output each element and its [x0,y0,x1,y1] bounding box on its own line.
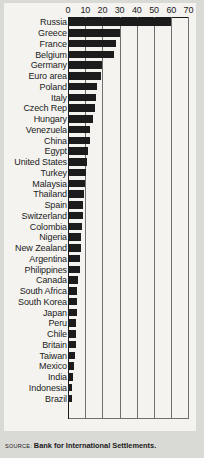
bar-row: Greece [4,28,196,39]
bar-germany [68,61,102,69]
bar-new-zealand [68,244,81,252]
bar-row: Mexico [4,361,196,372]
x-axis-tick-labels: 010203040506070 [4,5,196,17]
bar-row: Colombia [4,221,196,232]
bar-belgium [68,51,114,59]
x-tick-label-70: 70 [184,5,194,16]
bar-india [68,373,73,381]
bar-united-states [68,158,87,166]
category-label-indonesia: Indonesia [29,383,67,393]
bar-turkey [68,169,86,177]
bar-row: Indonesia [4,383,196,394]
bar-south-korea [68,298,77,306]
bar-rows: RussiaGreeceFranceBelgiumGermanyEuro are… [4,17,196,419]
chart-figure: 010203040506070 RussiaGreeceFranceBelgiu… [0,0,204,458]
bar-row: Czech Rep [4,103,196,114]
bar-hungary [68,115,93,123]
bar-row: China [4,135,196,146]
bar-row: India [4,372,196,383]
category-label-taiwan: Taiwan [40,351,67,361]
bar-row: New Zealand [4,243,196,254]
bar-peru [68,319,76,327]
bar-row: Poland [4,82,196,93]
category-label-argentina: Argentina [29,254,67,264]
x-tick-label-40: 40 [132,5,142,16]
bar-russia [68,18,171,26]
bar-egypt [68,147,88,155]
category-label-japan: Japan [43,308,67,318]
bar-taiwan [68,352,75,360]
bar-row: Canada [4,275,196,286]
category-label-united-states: United States [14,157,67,167]
bar-philippines [68,266,80,274]
bar-brazil [68,395,72,403]
bar-row: Malaysia [4,178,196,189]
source-text: Bank for International Settlements. [34,441,156,450]
source-prefix-label: SOURCE: [5,443,32,449]
category-label-belgium: Belgium [35,50,67,60]
bar-japan [68,309,77,317]
bar-row: Euro area [4,71,196,82]
plot-area: RussiaGreeceFranceBelgiumGermanyEuro are… [4,17,196,419]
bar-row: Germany [4,60,196,71]
category-label-greece: Greece [38,28,67,38]
bar-row: Taiwan [4,350,196,361]
bar-switzerland [68,212,83,220]
category-label-chile: Chile [47,329,67,339]
bar-row: South Africa [4,286,196,297]
x-tick-label-50: 50 [149,5,159,16]
bar-row: Peru [4,318,196,329]
bar-row: Switzerland [4,211,196,222]
bar-row: Chile [4,329,196,340]
category-label-turkey: Turkey [40,168,67,178]
category-label-venezuela: Venezuela [26,125,67,135]
category-label-new-zealand: New Zealand [15,243,67,253]
bar-row: Egypt [4,146,196,157]
category-label-china: China [44,136,67,146]
source-note: SOURCE: Bank for International Settlemen… [5,441,201,451]
bar-spain [68,201,83,209]
bar-venezuela [68,126,90,134]
category-label-mexico: Mexico [39,361,67,371]
category-label-peru: Peru [48,318,67,328]
bar-mexico [68,362,74,370]
category-label-russia: Russia [40,17,67,27]
x-tick-label-30: 30 [115,5,125,16]
bar-indonesia [68,384,72,392]
bar-row: Russia [4,17,196,28]
x-tick-label-20: 20 [98,5,108,16]
category-label-colombia: Colombia [30,222,67,232]
category-label-italy: Italy [51,93,67,103]
category-label-canada: Canada [36,275,67,285]
bar-row: Brazil [4,393,196,404]
category-label-egypt: Egypt [44,146,67,156]
category-label-germany: Germany [31,60,67,70]
category-label-philippines: Philippines [25,265,67,275]
bar-britain [68,341,76,349]
category-label-south-korea: South Korea [18,297,67,307]
bar-thailand [68,190,84,198]
category-label-switzerland: Switzerland [22,211,67,221]
bar-row: Spain [4,200,196,211]
bar-colombia [68,223,82,231]
category-label-malaysia: Malaysia [32,179,67,189]
bar-greece [68,29,120,37]
bar-row: Argentina [4,254,196,265]
bar-china [68,137,90,145]
category-label-south-africa: South Africa [20,286,67,296]
bar-row: Turkey [4,168,196,179]
bar-row: Japan [4,307,196,318]
category-label-france: France [40,39,67,49]
bar-row: Britain [4,340,196,351]
bar-italy [68,94,96,102]
bar-argentina [68,255,80,263]
bar-south-africa [68,287,77,295]
category-label-brazil: Brazil [45,394,67,404]
bar-poland [68,83,97,91]
category-label-euro-area: Euro area [28,71,67,81]
bar-nigeria [68,233,81,241]
bar-row: Hungary [4,114,196,125]
category-label-czech-rep: Czech Rep [23,103,67,113]
bar-czech-rep [68,104,95,112]
bar-row: France [4,39,196,50]
